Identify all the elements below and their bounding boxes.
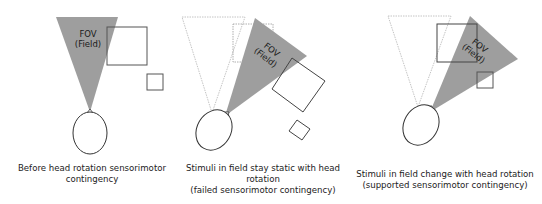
caption-line: Stimuli in field stay static with head <box>178 163 348 174</box>
caption-failed: Stimuli in field stay static with head r… <box>178 163 348 196</box>
fov-cone <box>225 18 307 116</box>
caption-line: Before head rotation sensorimotor <box>14 163 170 174</box>
fov-cone <box>430 16 518 112</box>
caption-line: (supported sensorimotor contingency) <box>350 180 540 191</box>
head-icon <box>73 112 107 154</box>
small-stimulus-square <box>147 74 163 90</box>
panel-failed: FOV(Field) <box>182 17 325 157</box>
caption-line: (failed sensorimotor contingency) <box>178 185 348 196</box>
panel-before: FOV(Field) <box>56 17 163 154</box>
caption-line: Stimuli in field change with head rotati… <box>350 169 540 180</box>
head-icon <box>189 103 239 156</box>
caption-before: Before head rotation sensorimotor contin… <box>14 163 170 185</box>
caption-line: rotation <box>178 174 348 185</box>
caption-line: contingency <box>14 174 170 185</box>
small-stimulus-square <box>289 120 310 140</box>
caption-supported: Stimuli in field change with head rotati… <box>350 169 540 191</box>
panel-supported: FOV(Field) <box>388 16 518 152</box>
